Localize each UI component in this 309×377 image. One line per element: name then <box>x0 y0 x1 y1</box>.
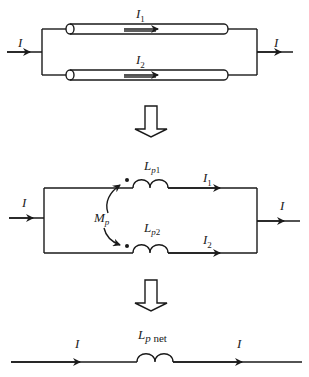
label-output-current: I <box>279 198 285 213</box>
label-input-current: I <box>21 195 27 210</box>
mutual-arrow-down <box>104 228 120 245</box>
dot-marker-2 <box>125 244 129 248</box>
circuit-diagram: I I I1 I2 I I Mp <box>0 0 309 377</box>
label-input-current: I <box>17 35 23 50</box>
conductor-tube-1 <box>66 24 228 34</box>
label-current-1: I1 <box>202 170 212 188</box>
label-output-current: I <box>273 35 279 50</box>
inductor-lp2 <box>133 245 168 253</box>
conductor-tube-2 <box>66 70 228 80</box>
transform-arrow-1 <box>135 106 167 137</box>
label-current-1: I1 <box>135 6 145 24</box>
transform-arrow-2 <box>135 280 167 311</box>
inductor-lp1 <box>133 180 168 188</box>
label-lp2: Lp2 <box>143 220 160 237</box>
stage1-parallel-conductors: I I I1 I2 <box>7 6 293 80</box>
dot-marker-1 <box>125 178 129 182</box>
label-current-2: I2 <box>135 52 145 70</box>
stage2-partial-inductance-circuit: I I Mp Lp1 Lp2 I1 I2 <box>9 158 300 253</box>
mutual-arrow-up <box>107 185 120 213</box>
label-lp-net: Lp net <box>137 327 167 344</box>
stage3-net-inductance: I I Lp net <box>11 327 302 362</box>
inductor-lp-net <box>137 354 173 362</box>
label-lp1: Lp1 <box>143 158 160 175</box>
label-output-current: I <box>236 336 242 351</box>
label-current-2: I2 <box>202 232 212 250</box>
label-input-current: I <box>74 336 80 351</box>
